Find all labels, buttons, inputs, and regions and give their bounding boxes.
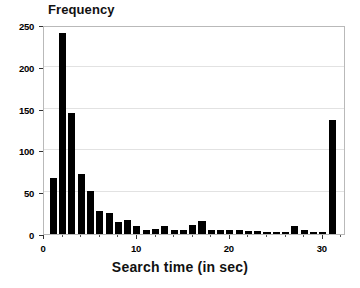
y-tick-mark xyxy=(39,110,43,111)
bar xyxy=(59,33,66,234)
x-minor-tick-mark xyxy=(62,235,63,237)
y-axis: 050100150200250 xyxy=(0,0,40,288)
bar xyxy=(329,120,336,234)
x-minor-tick-mark xyxy=(210,235,211,237)
bar xyxy=(50,178,57,234)
x-tick-label: 30 xyxy=(317,243,327,254)
bar xyxy=(217,230,224,234)
x-minor-tick-mark xyxy=(173,235,174,237)
x-minor-tick-mark xyxy=(80,235,81,237)
x-minor-tick-mark xyxy=(247,235,248,237)
x-minor-tick-mark xyxy=(266,235,267,237)
bar xyxy=(152,229,159,234)
gridline xyxy=(44,66,344,67)
bar xyxy=(87,191,94,234)
bar xyxy=(291,226,298,234)
bar xyxy=(245,231,252,234)
bar xyxy=(68,113,75,234)
x-tick-label: 0 xyxy=(41,243,46,254)
y-tick-label: 100 xyxy=(19,146,34,157)
x-tick-mark xyxy=(136,235,137,239)
bar xyxy=(208,230,215,234)
y-tick-label: 200 xyxy=(19,62,34,73)
bar xyxy=(236,230,243,234)
x-minor-tick-mark xyxy=(285,235,286,237)
histogram-figure: Frequency 050100150200250 0102030 Search… xyxy=(0,0,360,288)
bar xyxy=(161,226,168,234)
x-axis-title: Search time (in sec) xyxy=(0,259,360,275)
y-tick-label: 50 xyxy=(24,188,34,199)
gridline xyxy=(44,149,344,150)
bar xyxy=(171,230,178,234)
gridline xyxy=(44,108,344,109)
x-tick-label: 20 xyxy=(224,243,234,254)
x-tick-label: 10 xyxy=(131,243,141,254)
bar xyxy=(96,211,103,234)
bar xyxy=(254,231,261,234)
y-tick-mark xyxy=(39,26,43,27)
bar xyxy=(115,222,122,234)
bar xyxy=(124,220,131,234)
x-tick-mark xyxy=(43,235,44,239)
bar xyxy=(226,230,233,234)
bar xyxy=(310,232,317,235)
y-axis-title: Frequency xyxy=(48,2,115,17)
bar xyxy=(143,230,150,234)
x-tick-mark xyxy=(322,235,323,239)
y-tick-label: 150 xyxy=(19,104,34,115)
bar xyxy=(263,232,270,235)
x-tick-mark xyxy=(229,235,230,239)
plot-area xyxy=(43,26,345,235)
x-minor-tick-mark xyxy=(117,235,118,237)
x-minor-tick-mark xyxy=(303,235,304,237)
x-minor-tick-mark xyxy=(340,235,341,237)
bar xyxy=(198,221,205,234)
bar xyxy=(133,226,140,234)
x-minor-tick-mark xyxy=(99,235,100,237)
bar xyxy=(180,230,187,234)
bar xyxy=(319,232,326,234)
x-minor-tick-mark xyxy=(192,235,193,237)
y-tick-label: 250 xyxy=(19,21,34,32)
bar xyxy=(273,232,280,235)
bar xyxy=(282,232,289,234)
bar xyxy=(189,225,196,234)
y-tick-label: 0 xyxy=(29,230,34,241)
bar xyxy=(78,174,85,234)
x-minor-tick-mark xyxy=(155,235,156,237)
bar xyxy=(106,213,113,234)
bar xyxy=(301,230,308,234)
y-tick-mark xyxy=(39,193,43,194)
y-tick-mark xyxy=(39,68,43,69)
y-tick-mark xyxy=(39,151,43,152)
